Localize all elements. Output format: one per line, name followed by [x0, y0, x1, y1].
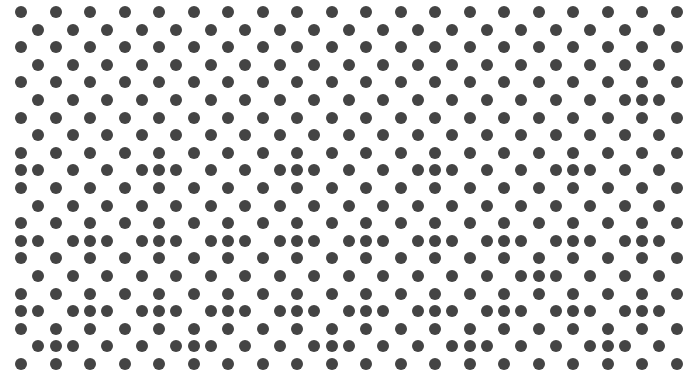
- lattice-dot: [326, 6, 338, 18]
- lattice-dot: [119, 182, 131, 194]
- cluster-dot: [429, 164, 441, 176]
- lattice-dot: [619, 305, 631, 317]
- lattice-dot: [481, 24, 493, 36]
- lattice-dot: [15, 147, 27, 159]
- lattice-dot: [239, 270, 251, 282]
- cluster-dot: [567, 235, 579, 247]
- lattice-dot: [50, 252, 62, 264]
- cluster-dot: [15, 164, 27, 176]
- lattice-dot: [619, 94, 631, 106]
- lattice-dot: [291, 358, 303, 370]
- lattice-dot: [67, 340, 79, 352]
- lattice-dot: [50, 112, 62, 124]
- lattice-dot: [515, 200, 527, 212]
- lattice-dot: [119, 358, 131, 370]
- lattice-dot: [32, 164, 44, 176]
- lattice-dot: [550, 200, 562, 212]
- lattice-dot: [101, 305, 113, 317]
- lattice-dot: [636, 6, 648, 18]
- lattice-dot: [671, 323, 683, 335]
- lattice-dot: [498, 288, 510, 300]
- cluster-dot: [567, 164, 579, 176]
- cluster-dot: [222, 235, 234, 247]
- lattice-dot: [188, 323, 200, 335]
- lattice-dot: [671, 358, 683, 370]
- lattice-dot: [50, 41, 62, 53]
- lattice-dot: [67, 24, 79, 36]
- lattice-dot: [567, 112, 579, 124]
- lattice-dot: [533, 288, 545, 300]
- lattice-dot: [153, 217, 165, 229]
- lattice-dot: [602, 288, 614, 300]
- lattice-dot: [412, 94, 424, 106]
- lattice-dot: [222, 76, 234, 88]
- lattice-dot: [636, 358, 648, 370]
- cluster-dot: [429, 235, 441, 247]
- lattice-dot: [15, 252, 27, 264]
- lattice-dot: [84, 217, 96, 229]
- lattice-dot: [567, 147, 579, 159]
- lattice-dot: [377, 305, 389, 317]
- lattice-dot: [429, 323, 441, 335]
- lattice-dot: [377, 270, 389, 282]
- lattice-dot: [550, 235, 562, 247]
- lattice-dot: [533, 112, 545, 124]
- lattice-dot: [360, 182, 372, 194]
- lattice-dot: [446, 24, 458, 36]
- lattice-dot: [464, 358, 476, 370]
- lattice-dot: [550, 129, 562, 141]
- lattice-dot: [84, 6, 96, 18]
- lattice-dot: [360, 112, 372, 124]
- lattice-dot: [205, 340, 217, 352]
- lattice-dot: [205, 270, 217, 282]
- lattice-dot: [636, 323, 648, 335]
- lattice-dot: [395, 6, 407, 18]
- lattice-dot: [170, 340, 182, 352]
- lattice-dot: [498, 112, 510, 124]
- lattice-dot: [257, 41, 269, 53]
- lattice-dot: [308, 270, 320, 282]
- lattice-dot: [515, 129, 527, 141]
- lattice-dot: [101, 24, 113, 36]
- lattice-dot: [15, 323, 27, 335]
- lattice-dot: [239, 305, 251, 317]
- lattice-dot: [636, 288, 648, 300]
- lattice-dot: [326, 323, 338, 335]
- lattice-dot: [239, 24, 251, 36]
- lattice-dot: [619, 200, 631, 212]
- lattice-dot: [395, 41, 407, 53]
- lattice-dot: [239, 200, 251, 212]
- cluster-dot: [360, 235, 372, 247]
- lattice-dot: [395, 147, 407, 159]
- lattice-dot: [222, 323, 234, 335]
- lattice-dot: [326, 358, 338, 370]
- cluster-dot: [15, 305, 27, 317]
- lattice-dot: [188, 358, 200, 370]
- lattice-dot: [50, 76, 62, 88]
- lattice-dot: [619, 24, 631, 36]
- lattice-dot: [602, 358, 614, 370]
- cluster-dot: [15, 235, 27, 247]
- lattice-dot: [119, 76, 131, 88]
- lattice-dot: [170, 94, 182, 106]
- lattice-dot: [515, 340, 527, 352]
- lattice-dot: [188, 112, 200, 124]
- lattice-dot: [188, 41, 200, 53]
- lattice-dot: [446, 305, 458, 317]
- lattice-dot: [464, 217, 476, 229]
- lattice-dot: [653, 164, 665, 176]
- lattice-dot: [533, 182, 545, 194]
- lattice-dot: [567, 252, 579, 264]
- lattice-dot: [119, 41, 131, 53]
- lattice-dot: [567, 6, 579, 18]
- lattice-dot: [239, 59, 251, 71]
- lattice-dot: [653, 235, 665, 247]
- lattice-dot: [567, 76, 579, 88]
- lattice-dot: [395, 252, 407, 264]
- lattice-dot: [274, 164, 286, 176]
- lattice-dot: [584, 129, 596, 141]
- lattice-dot: [308, 164, 320, 176]
- lattice-dot: [15, 112, 27, 124]
- lattice-dot: [619, 270, 631, 282]
- lattice-dot: [446, 59, 458, 71]
